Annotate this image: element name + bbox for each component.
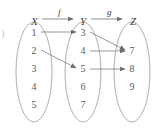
set-label-X: X (31, 16, 38, 27)
element-X-2: 2 (28, 46, 40, 56)
element-Y-5: 5 (77, 64, 89, 74)
element-X-5: 5 (28, 100, 40, 110)
map-label-g: g (107, 8, 112, 17)
element-X-4: 4 (28, 82, 40, 92)
element-Z-8: 8 (126, 64, 138, 74)
set-label-Y: Y (80, 16, 86, 27)
element-Y-4: 4 (77, 46, 89, 56)
element-Z-9: 9 (126, 82, 138, 92)
set-label-Z: Z (130, 16, 136, 27)
element-X-3: 3 (28, 64, 40, 74)
element-Y-3: 3 (77, 28, 89, 38)
element-Y-7: 7 (77, 100, 89, 110)
function-composition-diagram: X12345Y34567Z789fg) (0, 0, 157, 130)
figure-corner-mark: ) (1, 28, 5, 39)
element-X-1: 1 (28, 28, 40, 38)
map-label-f: f (58, 8, 61, 17)
element-Z-7: 7 (126, 46, 138, 56)
mapping-arrow-f-2-to-5 (41, 50, 76, 68)
element-Y-6: 6 (77, 82, 89, 92)
